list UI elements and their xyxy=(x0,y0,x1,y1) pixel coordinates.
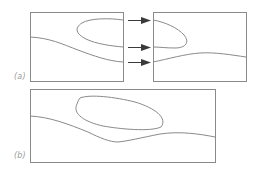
panel-a-left xyxy=(30,13,124,82)
arrow-top-head-icon xyxy=(141,17,151,24)
panel-a-right-boundary-curve xyxy=(153,53,246,62)
panel-a-right-frame xyxy=(154,13,247,82)
panel-a-right-loop-curve xyxy=(153,20,187,48)
arrow-bottom-head-icon xyxy=(141,59,151,66)
panel-a-left-boundary-curve xyxy=(30,37,123,62)
mapping-arrows xyxy=(128,17,151,66)
panel-a-right xyxy=(153,13,247,82)
arrow-middle-head-icon xyxy=(141,44,151,51)
panel-a-left-frame xyxy=(31,13,124,82)
diagram-canvas xyxy=(0,0,259,172)
panel-a-label: (a) xyxy=(14,72,26,81)
panel-b xyxy=(30,90,216,163)
panel-b-frame xyxy=(31,90,216,163)
panel-b-loop-curve xyxy=(76,96,163,130)
panel-a-left-loop-curve xyxy=(77,19,123,47)
panel-b-label: (b) xyxy=(14,151,26,160)
